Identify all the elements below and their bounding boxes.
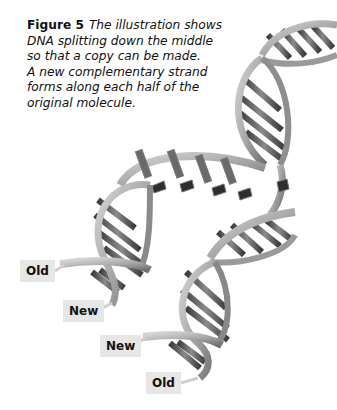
intact-helix-segment: [238, 24, 337, 165]
label-new-left: New: [63, 300, 104, 322]
dna-helix-illustration: [0, 0, 337, 410]
label-new-right: New: [100, 335, 141, 357]
label-pointers: [55, 265, 198, 383]
label-old-right: Old: [146, 372, 181, 394]
right-daughter-helix: [143, 212, 295, 378]
left-daughter-helix: [60, 185, 150, 305]
label-old-left: Old: [20, 260, 55, 282]
